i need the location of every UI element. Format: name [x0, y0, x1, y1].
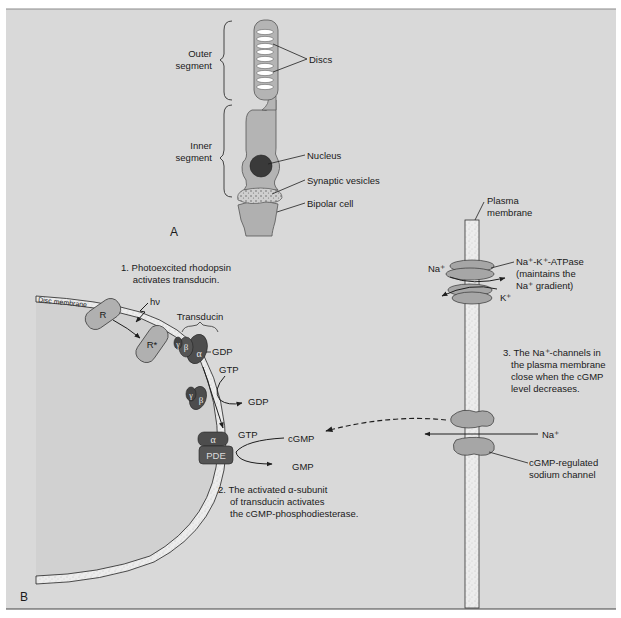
gdp-out-label: GDP	[248, 396, 269, 407]
synaptic-terminal	[238, 188, 282, 204]
photon-label: hν	[150, 296, 160, 307]
pde-label: PDE	[206, 450, 226, 461]
alpha-gtp-label: α	[210, 434, 216, 445]
beta-dimer-label: β	[199, 395, 204, 405]
gamma-subunit-label: γ	[175, 340, 180, 349]
cgmp-label: cGMP	[288, 433, 314, 444]
atpase-label-line2: (maintains the	[516, 268, 576, 279]
atpase-label-line3: Na⁺ gradient)	[516, 280, 573, 291]
plasma-membrane-label-line1: Plasma	[487, 195, 519, 206]
rhodopsin-activated-label: R*	[147, 339, 158, 350]
panel-b-label: B	[20, 590, 28, 604]
phototransduction-figure: Outer segment Inner segment Discs Nucleu…	[0, 0, 621, 618]
step2-line3: the cGMP-phosphodiesterase.	[230, 508, 358, 519]
figure-canvas: Outer segment Inner segment Discs Nucleu…	[0, 0, 621, 618]
synaptic-vesicles-label: Synaptic vesicles	[307, 175, 380, 186]
step3-line1: 3. The Na⁺-channels in	[503, 347, 601, 358]
alpha-subunit-label: α	[196, 348, 202, 359]
rhodopsin-label: R	[100, 309, 107, 320]
transducin-label: Transducin	[177, 311, 224, 322]
bipolar-cell-label: Bipolar cell	[307, 198, 353, 209]
inner-segment-label-line1: Inner	[190, 140, 212, 151]
gtp-in-label: GTP	[219, 364, 239, 375]
gdp-bound-label: GDP	[212, 346, 233, 357]
step2-line2: of transducin activates	[230, 496, 325, 507]
beta-subunit-label: β	[184, 342, 189, 352]
step3-line3: close when the cGMP	[511, 371, 603, 382]
k-ion-label: K⁺	[500, 292, 511, 303]
step3-line4: level decreases.	[511, 383, 580, 394]
outer-segment-label-line2: segment	[176, 60, 213, 71]
gmp-label: GMP	[292, 461, 314, 472]
step1-line2: activates transducin.	[133, 274, 220, 285]
step2-line1: 2. The activated α-subunit	[218, 484, 328, 495]
step3-line2: the plasma membrane	[511, 359, 606, 370]
na-ion-atpase-label: Na⁺	[428, 263, 445, 274]
nucleus	[250, 155, 272, 177]
nucleus-label: Nucleus	[307, 150, 342, 161]
gtp-alpha-label: GTP	[238, 429, 258, 440]
panel-a-label: A	[170, 225, 178, 239]
na-ion-channel-label: Na⁺	[542, 429, 559, 440]
channel-label-line2: sodium channel	[529, 469, 596, 480]
inner-segment-label-line2: segment	[176, 152, 213, 163]
disc-stack	[257, 29, 274, 89]
plasma-membrane-label-line2: membrane	[487, 207, 532, 218]
atpase-label-line1: Na⁺-K⁺-ATPase	[516, 256, 584, 267]
alpha-pde-complex: α PDE	[198, 432, 233, 464]
outer-segment-label-line1: Outer	[188, 48, 212, 59]
discs-label: Discs	[309, 54, 332, 65]
gamma-dimer-label: γ	[188, 391, 193, 400]
channel-label-line1: cGMP-regulated	[529, 457, 598, 468]
step1-line1: 1. Photoexcited rhodopsin	[121, 262, 231, 273]
